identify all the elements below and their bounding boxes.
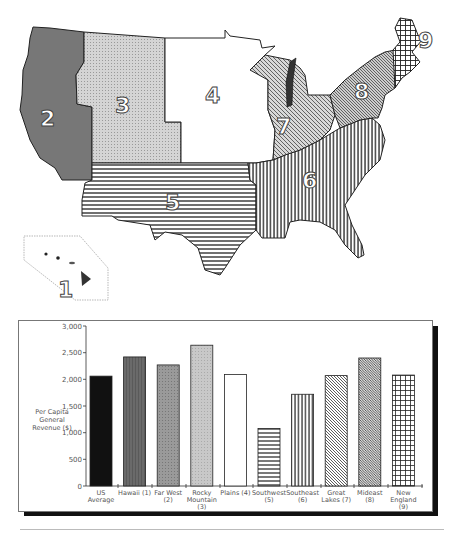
bar-hawaii-1 bbox=[124, 357, 146, 486]
bar-southeast-6 bbox=[292, 394, 314, 486]
y-tick-label: 1,000 bbox=[62, 429, 82, 437]
y-tick-label: 0 bbox=[78, 483, 82, 491]
bar-plains-4 bbox=[224, 375, 246, 486]
bar-new-england-9 bbox=[392, 375, 414, 486]
bar-mideast-8 bbox=[359, 358, 381, 486]
category-label: (3) bbox=[197, 503, 206, 511]
y-tick-label: 3,000 bbox=[62, 323, 82, 331]
y-tick-label: 1,500 bbox=[62, 403, 82, 411]
bar-great-lakes-7 bbox=[325, 376, 347, 486]
category-label: Hawaii (1) bbox=[118, 489, 151, 497]
y-tick-label: 500 bbox=[69, 456, 82, 464]
bottom-rule bbox=[20, 529, 444, 530]
category-label: (9) bbox=[399, 503, 408, 511]
bar-us-average bbox=[90, 376, 112, 486]
category-label: Plains (4) bbox=[220, 489, 250, 497]
y-tick-label: 2,000 bbox=[62, 376, 82, 384]
category-label: Lakes (7) bbox=[321, 496, 351, 504]
bar-southwest-5 bbox=[258, 428, 280, 486]
bar-chart: 0 500 1,000 1,500 2,000 2,500 3,000 USAv… bbox=[0, 0, 454, 533]
y-ticks bbox=[83, 326, 86, 486]
category-label: Average bbox=[88, 496, 115, 504]
category-label: (2) bbox=[164, 496, 173, 504]
category-label: (8) bbox=[365, 496, 374, 504]
category-label: (6) bbox=[298, 496, 307, 504]
bar-far-west-2 bbox=[157, 365, 179, 486]
category-label: (5) bbox=[264, 496, 273, 504]
bars bbox=[90, 345, 414, 486]
bar-rocky-mountain-3 bbox=[191, 345, 213, 486]
y-tick-label: 2,500 bbox=[62, 349, 82, 357]
category-labels: USAverageHawaii (1)Far West(2)RockyMount… bbox=[88, 489, 417, 511]
